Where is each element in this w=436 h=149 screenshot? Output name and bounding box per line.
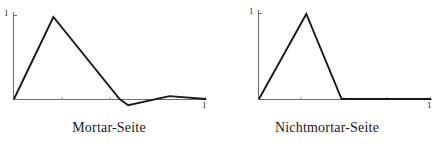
plot-svg-mortar <box>0 0 218 118</box>
chart-caption-mortar: Mortar-Seite <box>0 120 218 136</box>
chart-panel-mortar: 1 1 Mortar-Seite <box>0 0 218 149</box>
data-series-line <box>14 17 206 105</box>
y-axis-label-1: 1 <box>4 9 9 18</box>
x-axis-label-1: 1 <box>427 101 432 110</box>
plot-svg-nichtmortar <box>218 0 436 118</box>
y-axis-label-1: 1 <box>249 7 254 16</box>
figure-container: 1 1 Mortar-Seite 1 1 <box>0 0 436 149</box>
plot-area-nichtmortar: 1 1 <box>218 0 436 118</box>
chart-caption-nichtmortar: Nichtmortar-Seite <box>218 120 436 136</box>
chart-panel-nichtmortar: 1 1 Nichtmortar-Seite <box>218 0 436 149</box>
data-series-line <box>259 14 431 99</box>
plot-area-mortar: 1 1 <box>0 0 218 118</box>
x-axis-label-1: 1 <box>202 101 207 110</box>
